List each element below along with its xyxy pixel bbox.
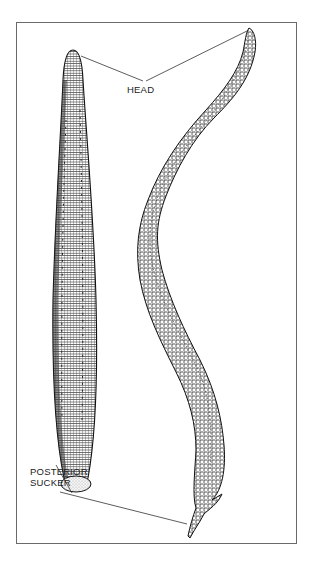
extended-leech (138, 28, 256, 538)
posterior-sucker-label-line1: POSTERIOR (30, 466, 88, 477)
posterior-sucker-label: POSTERIOR SUCKER (30, 466, 88, 488)
head-label: HEAD (127, 84, 154, 95)
posterior-sucker-label-line2: SUCKER (30, 477, 88, 488)
contracted-leech (53, 50, 97, 492)
